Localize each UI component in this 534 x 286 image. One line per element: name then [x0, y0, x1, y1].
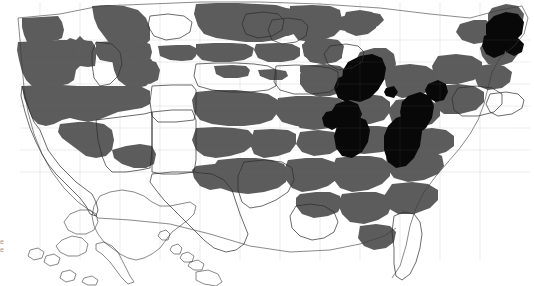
edge-text-line-1: e	[0, 238, 14, 246]
map-svg-canvas	[0, 0, 534, 286]
us-county-choropleth-map: e e	[0, 0, 534, 286]
edge-text-line-2: e	[0, 246, 14, 254]
left-edge-clipped-text: e e	[0, 238, 14, 254]
